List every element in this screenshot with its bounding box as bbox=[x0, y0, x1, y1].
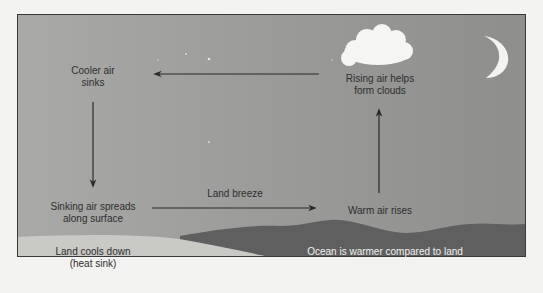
star-icon bbox=[331, 59, 333, 61]
star-icon bbox=[157, 59, 158, 60]
star-icon bbox=[208, 58, 211, 61]
cloud-icon bbox=[341, 24, 413, 66]
label-warm-air-rises: Warm air rises bbox=[335, 205, 425, 217]
label-land-breeze: Land breeze bbox=[195, 188, 275, 200]
label-rising-air-helps-form-clouds: Rising air helps form clouds bbox=[335, 73, 425, 97]
crescent-moon-icon bbox=[484, 36, 508, 78]
label-sinking-air-spreads: Sinking air spreads along surface bbox=[43, 201, 143, 225]
label-land-cools-down: Land cools down (heat sink) bbox=[48, 246, 138, 270]
star-icon bbox=[185, 53, 187, 55]
label-cooler-air-sinks: Cooler air sinks bbox=[58, 65, 128, 89]
star-icon bbox=[208, 141, 210, 143]
label-ocean-warmer: Ocean is warmer compared to land (heat s… bbox=[300, 246, 470, 270]
